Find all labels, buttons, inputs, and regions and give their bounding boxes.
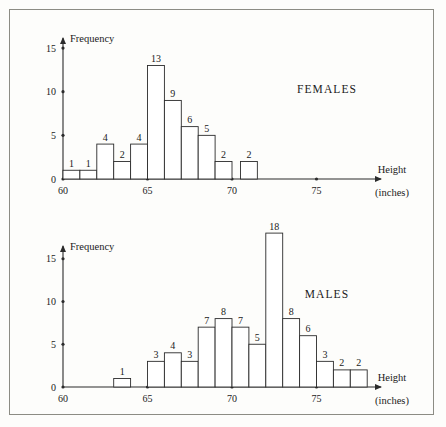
males-histogram-svg: 05101560657075134378751886322FrequencyHe… bbox=[10, 206, 435, 416]
y-tick-mark bbox=[61, 343, 64, 346]
bar-value-label: 4 bbox=[103, 132, 108, 143]
series-name-label: MALES bbox=[305, 288, 349, 300]
bar-value-label: 2 bbox=[356, 357, 361, 368]
y-tick-mark bbox=[61, 257, 64, 260]
bar-value-label: 1 bbox=[120, 366, 125, 377]
histogram-bar bbox=[240, 162, 257, 179]
histogram-bar bbox=[114, 378, 131, 387]
bar-value-label: 3 bbox=[187, 349, 192, 360]
histogram-bar bbox=[148, 361, 165, 387]
histogram-bar bbox=[283, 319, 300, 387]
bar-value-label: 9 bbox=[170, 88, 175, 99]
histogram-bar bbox=[164, 100, 181, 179]
histogram-bar bbox=[63, 170, 80, 179]
histogram-bar bbox=[164, 353, 181, 387]
x-tick-mark bbox=[61, 385, 64, 388]
bar-value-label: 2 bbox=[221, 149, 226, 160]
bar-value-label: 8 bbox=[221, 306, 226, 317]
bar-value-label: 4 bbox=[170, 340, 175, 351]
bar-value-label: 7 bbox=[238, 315, 243, 326]
x-tick-label: 70 bbox=[227, 393, 237, 404]
histogram-bar bbox=[198, 327, 215, 387]
bar-value-label: 5 bbox=[204, 123, 209, 134]
y-tick-mark bbox=[61, 90, 64, 93]
y-tick-label: 15 bbox=[46, 43, 56, 54]
histogram-bar bbox=[249, 344, 266, 387]
y-tick-mark bbox=[61, 300, 64, 303]
chart-females: 05101560657075114241396522FrequencyHeigh… bbox=[10, 10, 435, 213]
x-axis-unit-label: (inches) bbox=[375, 187, 409, 199]
y-tick-label: 0 bbox=[51, 382, 56, 393]
y-tick-label: 5 bbox=[51, 339, 56, 350]
y-axis-title: Frequency bbox=[70, 241, 115, 252]
bar-value-label: 4 bbox=[137, 132, 142, 143]
histogram-bar bbox=[131, 144, 148, 179]
y-tick-label: 10 bbox=[46, 296, 56, 307]
y-tick-mark bbox=[61, 46, 64, 49]
histogram-bar bbox=[266, 233, 283, 387]
histogram-bar bbox=[97, 144, 114, 179]
bar-value-label: 8 bbox=[289, 306, 294, 317]
x-tick-label: 75 bbox=[312, 393, 322, 404]
bar-value-label: 2 bbox=[339, 357, 344, 368]
bar-value-label: 3 bbox=[322, 349, 327, 360]
histogram-bar bbox=[181, 361, 198, 387]
x-tick-label: 60 bbox=[58, 185, 68, 196]
histogram-bar bbox=[350, 370, 367, 387]
y-axis-title: Frequency bbox=[70, 33, 115, 44]
x-axis-title: Height bbox=[378, 164, 407, 175]
histogram-bar bbox=[114, 162, 131, 179]
histogram-bar bbox=[317, 361, 334, 387]
bar-value-label: 2 bbox=[246, 149, 251, 160]
y-tick-label: 15 bbox=[46, 253, 56, 264]
bar-value-label: 7 bbox=[204, 315, 209, 326]
bar-value-label: 2 bbox=[120, 149, 125, 160]
histogram-bar bbox=[333, 370, 350, 387]
y-tick-label: 5 bbox=[51, 130, 56, 141]
histogram-bar bbox=[215, 319, 232, 387]
x-tick-label: 70 bbox=[227, 185, 237, 196]
bar-value-label: 1 bbox=[69, 158, 74, 169]
x-tick-label: 60 bbox=[58, 393, 68, 404]
screenshot-root: 05101560657075114241396522FrequencyHeigh… bbox=[0, 0, 446, 427]
histogram-bar bbox=[232, 327, 249, 387]
histogram-bar bbox=[300, 336, 317, 387]
x-axis-title: Height bbox=[378, 372, 407, 383]
bar-value-label: 3 bbox=[153, 349, 158, 360]
x-tick-label: 65 bbox=[143, 393, 153, 404]
bar-value-label: 5 bbox=[255, 332, 260, 343]
bar-value-label: 18 bbox=[269, 221, 279, 232]
figure-frame: 05101560657075114241396522FrequencyHeigh… bbox=[9, 9, 434, 415]
series-name-label: FEMALES bbox=[297, 83, 357, 95]
y-tick-mark bbox=[61, 134, 64, 137]
bar-value-label: 13 bbox=[151, 53, 161, 64]
y-tick-label: 0 bbox=[51, 174, 56, 185]
histogram-bar bbox=[198, 135, 215, 179]
histogram-bar bbox=[80, 170, 97, 179]
histogram-bar bbox=[148, 66, 165, 179]
bar-value-label: 6 bbox=[187, 114, 192, 125]
x-axis-unit-label: (inches) bbox=[375, 395, 409, 407]
bar-value-label: 1 bbox=[86, 158, 91, 169]
bar-value-label: 6 bbox=[306, 323, 311, 334]
y-tick-label: 10 bbox=[46, 86, 56, 97]
histogram-bar bbox=[181, 127, 198, 179]
females-histogram-svg: 05101560657075114241396522FrequencyHeigh… bbox=[10, 10, 435, 213]
x-tick-label: 65 bbox=[143, 185, 153, 196]
chart-males: 05101560657075134378751886322FrequencyHe… bbox=[10, 206, 435, 409]
x-tick-mark bbox=[315, 177, 318, 180]
x-tick-label: 75 bbox=[312, 185, 322, 196]
histogram-bar bbox=[215, 162, 232, 179]
